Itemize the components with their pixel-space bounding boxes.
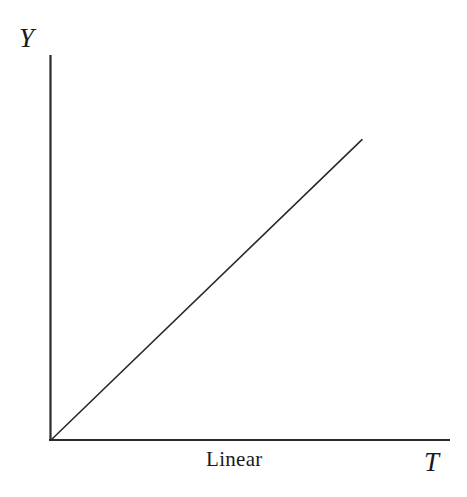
x-axis-label: T	[424, 449, 439, 476]
plot-area	[0, 0, 467, 497]
curve-caption-label: Linear	[206, 449, 263, 470]
y-axis-label: Y	[19, 25, 34, 52]
figure-canvas: Y T Linear	[0, 0, 467, 497]
linear-data-line	[51, 140, 362, 440]
